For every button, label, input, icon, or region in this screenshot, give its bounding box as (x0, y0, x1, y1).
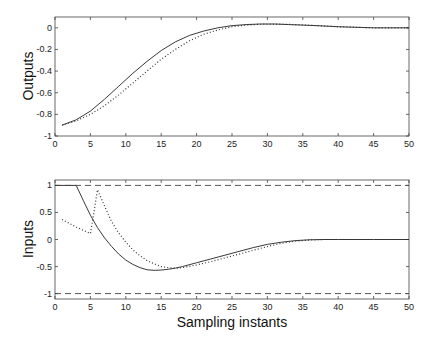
x-tick-label: 35 (298, 302, 308, 312)
x-tick-label: 20 (192, 139, 202, 149)
outputs-plot: 05101520253035404550-1-0.8-0.6-0.4-0.20 (36, 17, 414, 149)
y-tick-label: -0.5 (36, 262, 52, 272)
x-tick-label: 45 (369, 302, 379, 312)
x-tick-label: 50 (404, 139, 414, 149)
x-tick-label: 30 (262, 302, 272, 312)
x-tick-label: 45 (369, 139, 379, 149)
inputs-axis-title: Inputs (20, 220, 36, 258)
x-tick-label: 25 (227, 139, 237, 149)
x-tick-label: 0 (52, 139, 57, 149)
y-tick-label: -0.8 (36, 109, 52, 119)
solid-line (62, 24, 409, 125)
x-tick-label: 5 (88, 302, 93, 312)
outputs-axis-title: Outputs (20, 51, 36, 100)
y-tick-label: -0.4 (36, 66, 52, 76)
dotted-line (62, 24, 409, 125)
x-tick-label: 15 (156, 139, 166, 149)
x-tick-label: 5 (88, 139, 93, 149)
x-tick-label: 0 (52, 302, 57, 312)
x-axis-title: Sampling instants (177, 314, 288, 330)
y-tick-label: -0.6 (36, 88, 52, 98)
solid-line (55, 185, 409, 270)
inputs-plot: 05101520253035404550-1-0.500.51 (36, 180, 414, 312)
x-tick-label: 40 (333, 139, 343, 149)
x-tick-label: 30 (262, 139, 272, 149)
x-tick-label: 10 (121, 302, 131, 312)
y-tick-label: -0.2 (36, 44, 52, 54)
figure: 05101520253035404550-1-0.8-0.6-0.4-0.20 … (0, 0, 437, 344)
y-tick-label: 0 (47, 23, 52, 33)
y-tick-label: 1 (47, 180, 52, 190)
y-tick-label: -1 (44, 131, 52, 141)
x-tick-label: 35 (298, 139, 308, 149)
x-tick-label: 40 (333, 302, 343, 312)
y-tick-label: -1 (44, 289, 52, 299)
y-tick-label: 0.5 (39, 207, 52, 217)
x-tick-label: 50 (404, 302, 414, 312)
y-tick-label: 0 (47, 235, 52, 245)
x-tick-label: 25 (227, 302, 237, 312)
x-tick-label: 20 (192, 302, 202, 312)
x-tick-label: 15 (156, 302, 166, 312)
plot-frame (55, 17, 409, 136)
dotted-line (62, 190, 409, 268)
x-tick-label: 10 (121, 139, 131, 149)
